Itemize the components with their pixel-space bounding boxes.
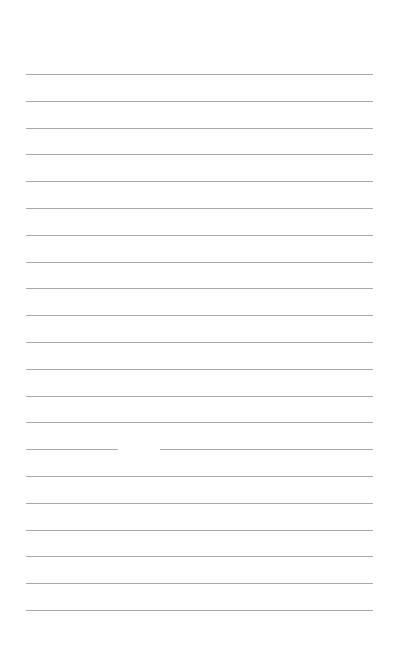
ruled-line (26, 235, 373, 236)
ruled-line (26, 181, 373, 182)
ruled-line (26, 128, 373, 129)
scan-gap (118, 447, 160, 450)
ruled-line (26, 503, 373, 504)
ruled-line (26, 396, 373, 397)
ruled-line (26, 556, 373, 557)
ruled-line (26, 154, 373, 155)
ruled-line (26, 208, 373, 209)
lined-paper-page (0, 0, 402, 658)
ruled-line (26, 610, 373, 611)
ruled-line (26, 449, 373, 450)
ruled-line (26, 315, 373, 316)
ruled-line (26, 476, 373, 477)
ruled-line (26, 530, 373, 531)
ruled-line (26, 342, 373, 343)
ruled-line (26, 369, 373, 370)
ruled-line (26, 288, 373, 289)
ruled-line (26, 74, 373, 75)
scan-gap (26, 473, 52, 476)
ruled-line (26, 422, 373, 423)
ruled-line (26, 101, 373, 102)
ruled-line (26, 583, 373, 584)
ruled-line (26, 262, 373, 263)
